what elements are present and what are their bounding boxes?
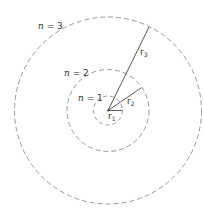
radius-line-r2 [108, 88, 141, 111]
label-r1: r1 [108, 111, 116, 122]
label-n3: n = 3 [38, 21, 63, 31]
bohr-orbit-diagram: n = 3 n = 2 n = 1 r3 r2 r1 [0, 0, 203, 217]
label-r2: r2 [127, 96, 135, 107]
label-n2-eq: = 2 [70, 68, 89, 78]
label-n2: n = 2 [64, 68, 89, 78]
label-r2-sub: 2 [131, 100, 135, 107]
label-r1-sub: 1 [112, 115, 116, 122]
label-n1: n = 1 [78, 93, 103, 103]
label-n1-eq: = 1 [84, 93, 103, 103]
label-n3-eq: = 3 [44, 21, 63, 31]
label-r3: r3 [140, 47, 148, 58]
label-r3-sub: 3 [144, 51, 148, 58]
